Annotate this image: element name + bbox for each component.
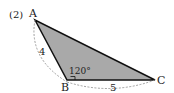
side-bc-length: 5: [110, 82, 116, 93]
vertex-label-c: C: [157, 74, 165, 87]
triangle-diagram: (2) A B C 4 120° 5: [0, 0, 174, 93]
vertex-label-b: B: [61, 81, 69, 93]
triangle-abc: [35, 20, 155, 80]
problem-number: (2): [9, 9, 23, 20]
angle-b-value: 120°: [69, 66, 91, 76]
side-ab-length: 4: [39, 46, 45, 57]
vertex-label-a: A: [28, 7, 38, 20]
